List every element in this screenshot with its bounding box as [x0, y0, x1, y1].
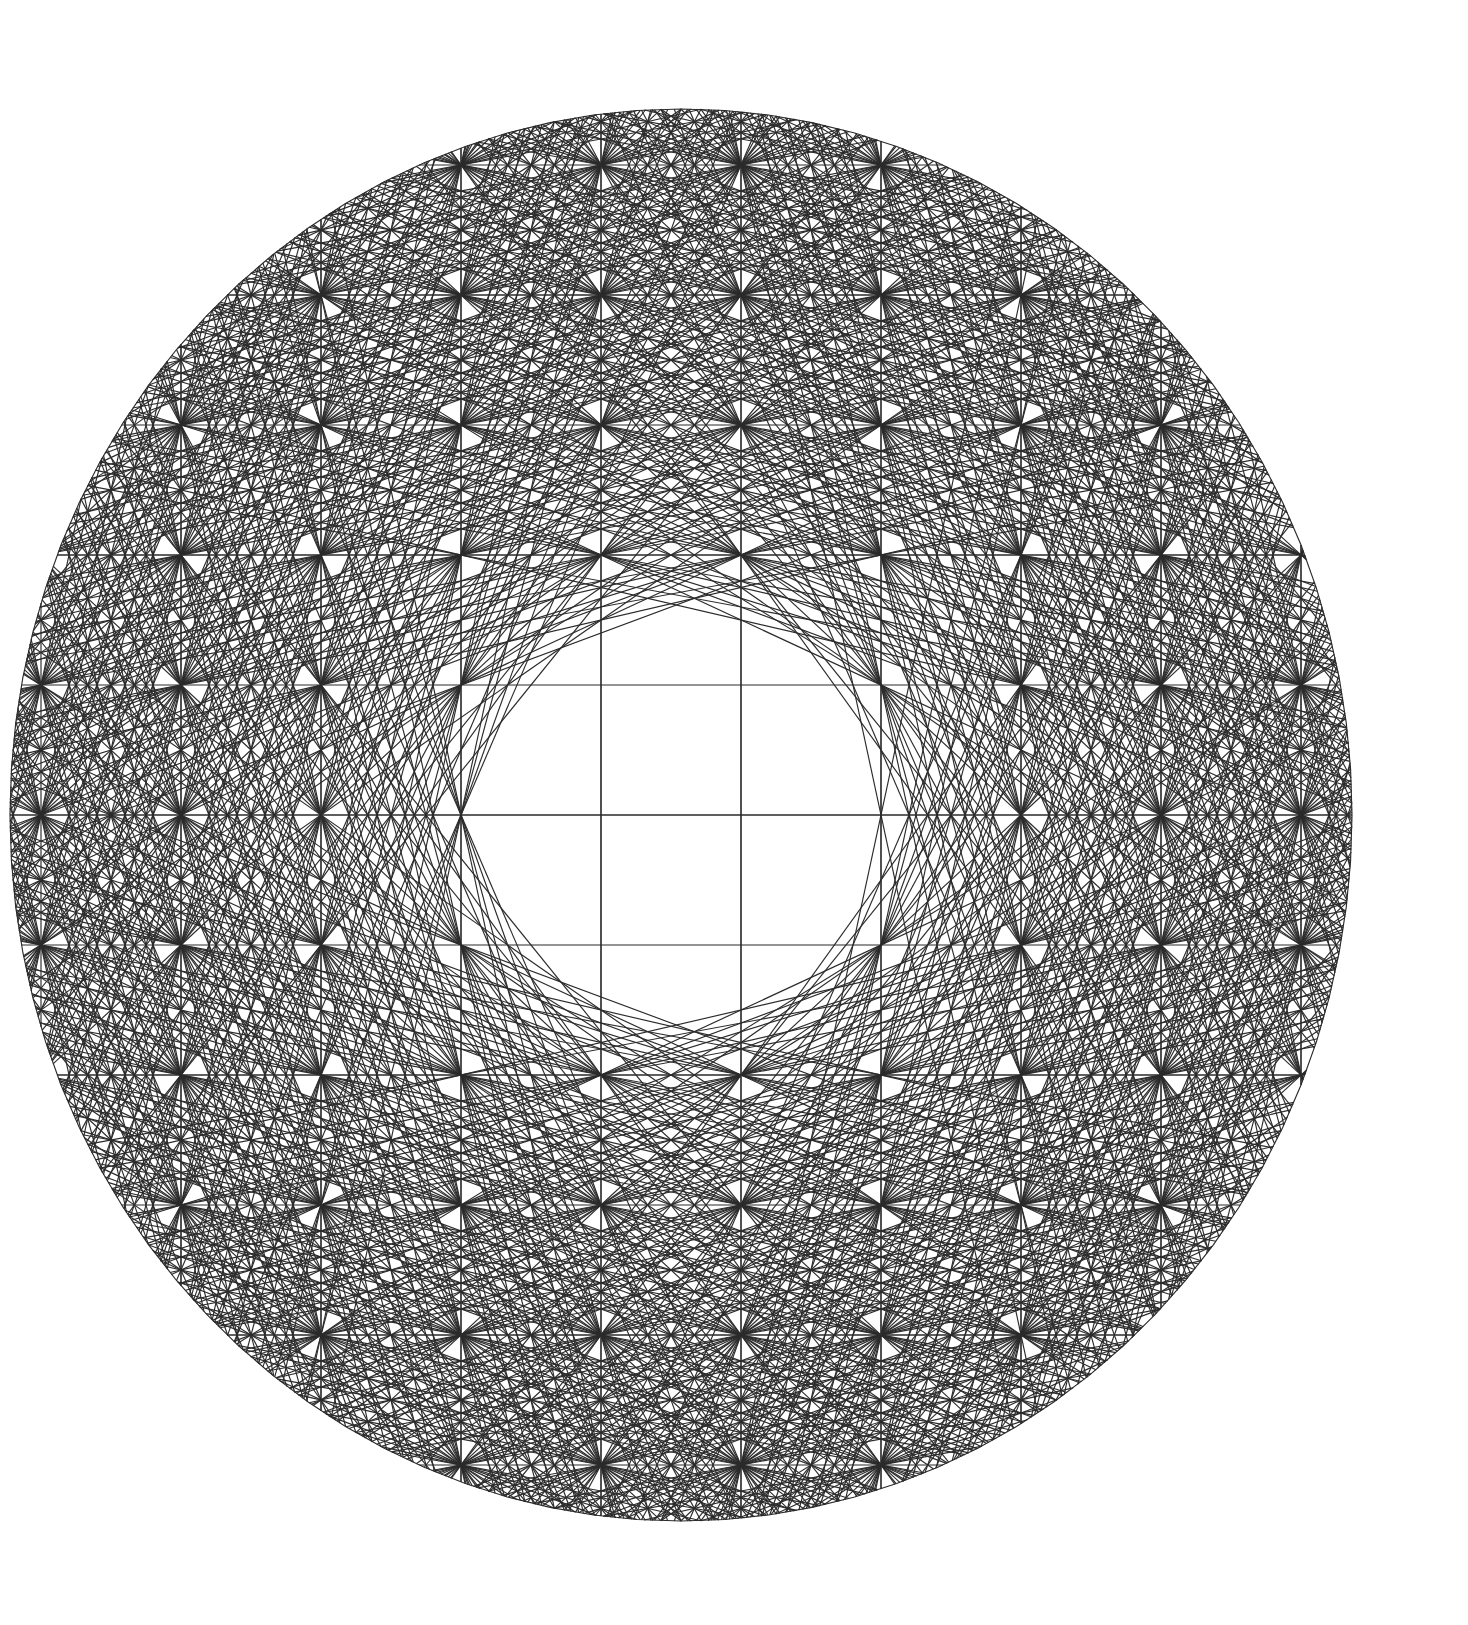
- lattice-circle-figure: Lattice chord circle diagram: [0, 0, 1468, 1625]
